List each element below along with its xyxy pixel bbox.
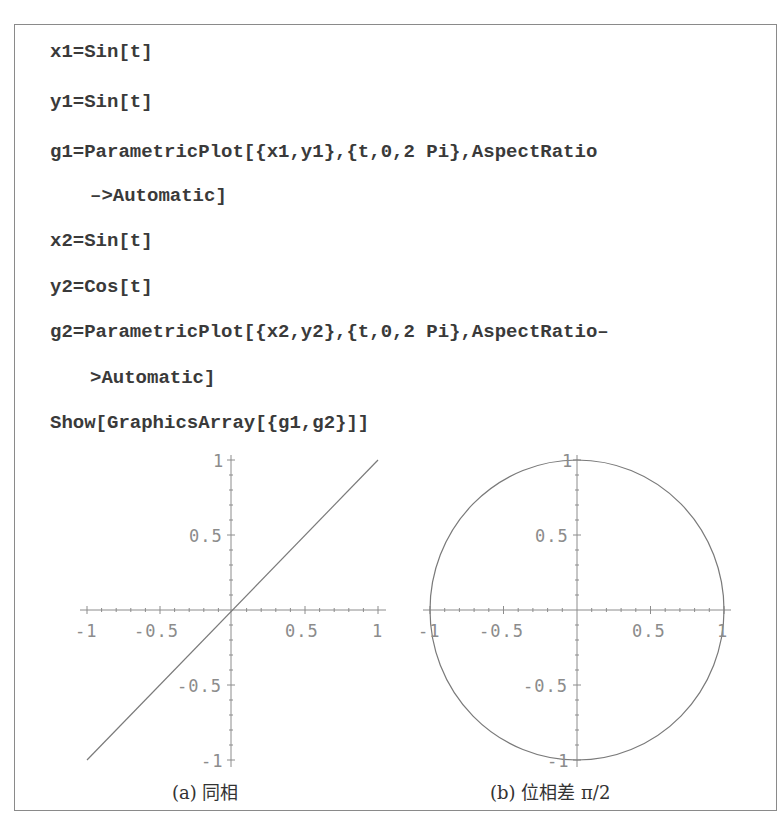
plot-b-ytick-neg1: -1 [547,751,569,771]
plot-b-xtick-neg1: -1 [418,621,440,641]
subcaption-b: (b) 位相差 π/2 [490,778,610,804]
plot-a-ytick-05: 0.5 [189,526,223,546]
plot-a-tick-labels: -1 -0.5 0.5 1 1 0.5 -0.5 -1 [75,451,383,771]
plot-a-ytick-neg05: -0.5 [177,676,222,696]
plot-b-xtick-1: 1 [717,621,728,641]
plot-a-ytick-1: 1 [213,451,224,471]
plot-a-xtick-neg05: -0.5 [134,621,179,641]
subcaption-a: (a) 同相 [172,778,239,804]
plot-b-xtick-05: 0.5 [632,621,666,641]
plots-canvas: -1 -0.5 0.5 1 1 0.5 -0.5 -1 [0,0,782,834]
plot-a-xtick-05: 0.5 [285,621,319,641]
plot-b-xtick-neg05: -0.5 [479,621,524,641]
plot-b: -1 -0.5 0.5 1 1 0.5 -0.5 -1 [418,451,731,771]
plot-a-ytick-neg1: -1 [201,751,223,771]
plot-b-y-axis [573,455,581,767]
plot-b-ytick-05: 0.5 [535,526,569,546]
plot-a-xtick-neg1: -1 [75,621,97,641]
plot-a: -1 -0.5 0.5 1 1 0.5 -0.5 -1 [75,451,386,771]
plot-a-xtick-1: 1 [372,621,383,641]
plot-b-ytick-neg05: -0.5 [523,676,568,696]
plot-b-ytick-1: 1 [562,451,573,471]
plot-b-tick-labels: -1 -0.5 0.5 1 1 0.5 -0.5 -1 [418,451,728,771]
